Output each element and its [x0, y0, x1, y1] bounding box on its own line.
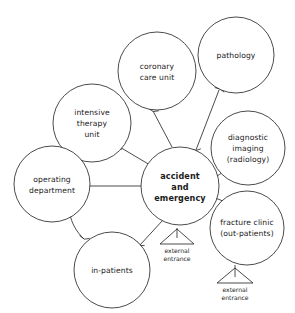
node-fracture-clinic[interactable]: fracture clinic (out-patients) [210, 191, 284, 265]
node-label-itu-line-3: unit [84, 130, 99, 139]
node-label-diagnostic-line-1: diagnostic [228, 133, 268, 142]
node-diagnostic-imaging[interactable]: diagnostic imaging (radiology) [211, 111, 285, 185]
node-label-fracture-line-2: (out-patients) [220, 229, 273, 238]
entrance-label-centre-line-1: external [164, 247, 189, 254]
node-pathology[interactable]: pathology [198, 17, 274, 93]
node-label-itu-line-1: intensive [74, 108, 110, 117]
node-accident-and-emergency[interactable]: accident and emergency [141, 147, 219, 225]
node-label-ae-line-3: emergency [154, 193, 206, 203]
node-circle-fracture-clinic[interactable] [210, 191, 284, 265]
node-label-ae-line-1: accident [160, 171, 200, 181]
node-label-fracture-line-1: fracture clinic [220, 218, 273, 227]
entrance-label-fracture-line-1: external [222, 286, 247, 293]
node-layer: coronary care unit pathology intensive t… [14, 17, 285, 308]
node-label-in-patients: in-patients [91, 266, 133, 275]
diagram-canvas: coronary care unit pathology intensive t… [0, 0, 295, 313]
node-label-diagnostic-line-3: (radiology) [227, 155, 269, 164]
node-circle-operating-department[interactable] [14, 146, 90, 222]
entrance-label-centre-line-2: entrance [163, 255, 190, 262]
edge-ae-to-coronary [149, 109, 173, 148]
node-label-operating-line-1: operating [33, 175, 71, 184]
node-coronary-care-unit[interactable]: coronary care unit [118, 32, 196, 110]
diagram-svg: coronary care unit pathology intensive t… [0, 0, 295, 313]
node-label-coronary-line-2: care unit [140, 73, 174, 82]
edge-ae-to-operating [83, 181, 142, 190]
node-in-patients[interactable]: in-patients [74, 232, 150, 308]
edge-ae-to-inpatients [137, 220, 163, 246]
node-operating-department[interactable]: operating department [14, 146, 90, 222]
node-label-diagnostic-line-2: imaging [232, 144, 264, 153]
node-label-ae-line-2: and [171, 182, 188, 192]
node-circle-coronary-care-unit[interactable] [118, 32, 196, 110]
node-label-pathology: pathology [217, 51, 256, 60]
node-label-operating-line-2: department [29, 186, 75, 195]
entrance-label-fracture-line-2: entrance [221, 294, 248, 301]
node-label-coronary-line-1: coronary [140, 62, 175, 71]
node-label-itu-line-2: therapy [77, 119, 108, 128]
